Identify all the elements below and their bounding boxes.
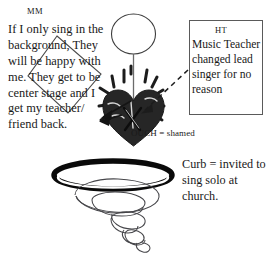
ring-inner-highlight (58, 168, 168, 188)
ouch-note-text: OUCH = shamed (131, 128, 195, 140)
ht-note-text: Music Teacher changed lead singer for no… (192, 38, 264, 98)
ht-tag-label: HT (215, 25, 227, 36)
diagram-canvas: MM If I only sing in the background, The… (0, 0, 267, 260)
curb-note-text: Curb = invited to sing solo at church. (182, 157, 266, 205)
balloon-circle (112, 14, 156, 54)
mm-note-text: If I only sing in the background, They w… (8, 22, 112, 133)
mm-tag-label: MM (27, 6, 43, 17)
